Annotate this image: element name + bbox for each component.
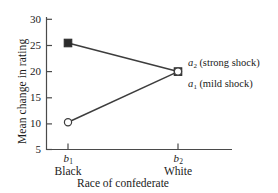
y-axis-ticks <box>47 19 53 149</box>
legend-a1-base: a <box>188 78 193 89</box>
x-tick-label-b1: b1 <box>48 153 88 165</box>
legend-a1-text: (mild shock) <box>199 78 252 89</box>
x-tick-label-b2: b2 <box>158 153 198 165</box>
x-tick-name-black: Black <box>38 165 98 177</box>
x-axis-ticks <box>68 144 178 150</box>
y-tick-label-30: 30 <box>19 14 41 25</box>
chart-figure: 30 25 20 15 10 5 Mean change in rating b… <box>0 0 278 193</box>
data-point-a2-black <box>64 39 72 47</box>
data-point-a1-black <box>64 119 71 126</box>
legend-entry-a1: a1 (mild shock) <box>188 78 253 91</box>
legend-a1-sub: 1 <box>194 83 198 91</box>
legend-a1-code: a1 <box>188 78 197 89</box>
x-axis-title: Race of confederate <box>23 177 223 189</box>
legend-a2-code: a2 <box>188 57 197 68</box>
series-line-a2 <box>68 43 178 72</box>
x-tick-name-white: White <box>148 165 208 177</box>
data-point-a1-white <box>174 68 181 75</box>
legend-a2-text: (strong shock) <box>199 57 259 68</box>
series-line-a1 <box>68 72 178 123</box>
legend-entry-a2: a2 (strong shock) <box>188 57 260 70</box>
legend-a2-base: a <box>188 57 193 68</box>
y-tick-label-5: 5 <box>19 144 41 155</box>
y-axis-title: Mean change in rating <box>16 39 28 144</box>
legend-a2-sub: 2 <box>194 62 198 70</box>
